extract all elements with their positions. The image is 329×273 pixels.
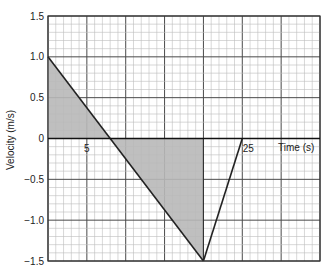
velocity-time-chart: 1.51.00.50−0.5−1.0−1.5 525 Time (s) Velo… xyxy=(0,0,329,273)
y-tick-label: −1.0 xyxy=(24,215,44,226)
y-tick-labels: 1.51.00.50−0.5−1.0−1.5 xyxy=(24,11,44,267)
y-axis-label: Velocity (m/s) xyxy=(5,110,16,170)
y-tick-label: −0.5 xyxy=(24,174,44,185)
x-tick-label: 5 xyxy=(84,143,90,154)
y-tick-label: 1.5 xyxy=(30,11,44,22)
y-tick-label: −1.5 xyxy=(24,256,44,267)
y-tick-label: 0.5 xyxy=(30,92,44,103)
y-tick-label: 1.0 xyxy=(30,51,44,62)
x-tick-label: 25 xyxy=(243,143,255,154)
y-tick-label: 0 xyxy=(38,133,44,144)
pointer-to-25-line xyxy=(203,139,242,262)
x-axis-label: Time (s) xyxy=(278,142,314,153)
